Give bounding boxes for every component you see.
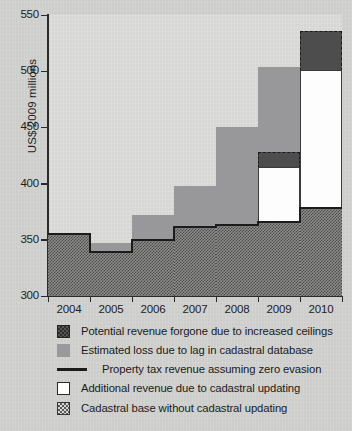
x-tick-6 — [300, 296, 301, 302]
chart-region: US$ 2009 millions 550 500 450 400 350 30… — [0, 0, 352, 318]
bar-2010-potential-forgone — [300, 31, 342, 71]
bar-2006-estimated-loss — [132, 215, 174, 240]
zero-evasion-line-2005 — [90, 251, 133, 253]
x-tick-label-2010: 2010 — [300, 303, 342, 315]
bar-2005-cadastral-base — [90, 252, 132, 296]
x-tick-0 — [48, 296, 49, 302]
legend-item-cadastral-base: Cadastral base without cadastral updatin… — [57, 399, 287, 417]
legend-item-additional-revenue: Additional revenue due to cadastral upda… — [57, 379, 300, 397]
x-tick-3 — [174, 296, 175, 302]
checker-light-swatch-icon — [57, 402, 70, 415]
y-tick-label-550: 550 — [0, 8, 39, 20]
legend-label-potential-forgone: Potential revenue forgone due to increas… — [81, 325, 333, 337]
bar-2009-cadastral-base — [258, 222, 300, 296]
bar-2006-cadastral-base — [132, 240, 174, 296]
zero-evasion-step-2004-2005 — [89, 233, 91, 253]
bar-2008-estimated-loss — [216, 127, 258, 225]
bar-2007-estimated-loss — [174, 186, 216, 228]
bar-2007-cadastral-base — [174, 227, 216, 296]
legend-label-additional-revenue: Additional revenue due to cadastral upda… — [81, 382, 300, 394]
zero-evasion-line-2007 — [174, 226, 217, 228]
bar-2010-cadastral-base — [300, 208, 342, 296]
y-tick-400 — [41, 183, 47, 184]
bar-2010-additional-revenue — [300, 70, 342, 209]
bar-2008-cadastral-base — [216, 225, 258, 296]
bar-2004-cadastral-base — [48, 234, 90, 296]
y-axis-title: US$ 2009 millions — [26, 21, 38, 191]
zero-evasion-line-2010 — [300, 207, 342, 209]
zero-evasion-step-2009-2010 — [299, 207, 301, 223]
y-tick-label-450: 450 — [0, 120, 39, 132]
x-tick-label-2006: 2006 — [132, 303, 174, 315]
legend-label-estimated-loss: Estimated loss due to lag in cadastral d… — [81, 344, 313, 356]
x-tick-1 — [90, 296, 91, 302]
y-tick-label-400: 400 — [0, 177, 39, 189]
zero-evasion-line-2004 — [48, 233, 91, 235]
legend-item-zero-evasion: Property tax revenue assuming zero evasi… — [57, 360, 321, 378]
x-tick-7 — [342, 296, 343, 302]
x-tick-label-2008: 2008 — [216, 303, 258, 315]
x-tick-5 — [258, 296, 259, 302]
x-tick-label-2007: 2007 — [174, 303, 216, 315]
legend-label-cadastral-base: Cadastral base without cadastral updatin… — [81, 402, 287, 414]
y-tick-label-500: 500 — [0, 64, 39, 76]
y-tick-300 — [41, 296, 47, 297]
x-tick-2 — [132, 296, 133, 302]
x-tick-4 — [216, 296, 217, 302]
zero-evasion-line-2008 — [216, 224, 259, 226]
y-tick-550 — [41, 15, 47, 16]
zero-evasion-line-2006 — [132, 239, 175, 241]
y-tick-label-350: 350 — [0, 233, 39, 245]
checker-dark-swatch-icon — [57, 325, 70, 338]
y-tick-350 — [41, 239, 47, 240]
legend-label-zero-evasion: Property tax revenue assuming zero evasi… — [102, 363, 321, 375]
legend-item-estimated-loss: Estimated loss due to lag in cadastral d… — [57, 341, 313, 359]
x-tick-label-2004: 2004 — [48, 303, 90, 315]
y-tick-label-300: 300 — [0, 289, 39, 301]
black-line-swatch-icon — [57, 363, 87, 376]
y-tick-450 — [41, 127, 47, 128]
legend-item-potential-forgone: Potential revenue forgone due to increas… — [57, 322, 333, 340]
bar-2009-additional-revenue — [258, 167, 300, 223]
zero-evasion-line-2009 — [258, 221, 301, 223]
x-tick-label-2009: 2009 — [258, 303, 300, 315]
y-tick-500 — [41, 71, 47, 72]
x-tick-label-2005: 2005 — [90, 303, 132, 315]
chart-legend: Potential revenue forgone due to increas… — [0, 318, 352, 431]
zero-evasion-step-2006-2007 — [173, 226, 175, 241]
bar-2009-potential-forgone — [258, 152, 300, 168]
zero-evasion-step-2005-2006 — [131, 239, 133, 254]
solid-gray-swatch-icon — [57, 344, 70, 357]
white-box-swatch-icon — [57, 382, 70, 395]
